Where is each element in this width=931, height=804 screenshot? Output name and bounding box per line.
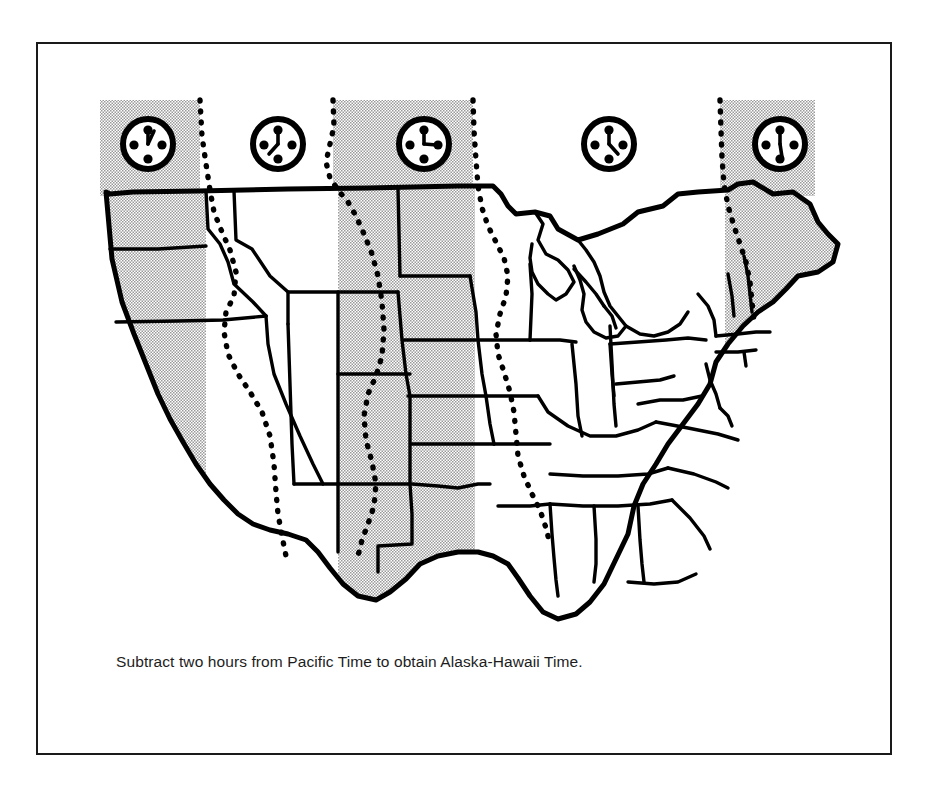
us-time-zone-map-svg: [38, 44, 894, 757]
map-caption: Subtract two hours from Pacific Time to …: [116, 653, 583, 671]
eastern-clock: [584, 119, 634, 169]
pacific-clock: [123, 119, 173, 169]
map-stage: [38, 44, 890, 753]
zone-band-strip: [100, 100, 815, 196]
figure-frame: Subtract two hours from Pacific Time to …: [36, 42, 892, 755]
mountain-clock: [253, 119, 303, 169]
time-zone-figure: Subtract two hours from Pacific Time to …: [0, 0, 931, 804]
central-clock: [399, 119, 449, 169]
atlantic-clock: [755, 119, 805, 169]
